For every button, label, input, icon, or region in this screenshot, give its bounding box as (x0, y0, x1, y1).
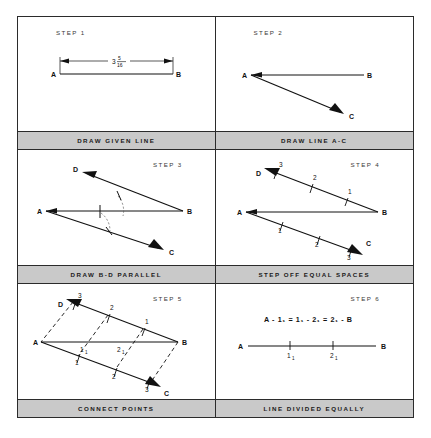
step5-caption-text: CONNECT POINTS (78, 405, 154, 412)
point-label-c: C (349, 113, 354, 120)
panel-step3: STEP 3 D A B C DRAW B-D PARALLEL (18, 150, 216, 283)
ray-b-d (88, 174, 183, 211)
point-label-b: B (382, 209, 387, 216)
tick-label-upper-1: 1 (145, 318, 149, 325)
division-label-2: 2 (330, 352, 334, 359)
point-label-b: B (381, 343, 386, 350)
tick-label-lower-2: 2 (315, 241, 319, 248)
point-label-a: A (37, 208, 42, 215)
intersection-subscript-2: 1 (122, 350, 125, 355)
point-label-b: B (182, 339, 187, 346)
point-label-a: A (238, 343, 243, 350)
connector-d-a (41, 302, 73, 342)
step6-drawing: A - 1₁ = 1₁ - 2₁ = 2₁ - B 1 1 2 1 A B (216, 284, 414, 403)
step5-drawing: 3 2 1 1 2 3 1 1 2 1 D A B C (18, 284, 216, 403)
division-subscript-2: 1 (335, 356, 338, 361)
dimension-arrow-right (164, 59, 173, 64)
step6-caption-text: LINE DIVIDED EQUALLY (263, 405, 365, 412)
step1-drawing: 3 5 16 A B (18, 17, 216, 134)
panel-step2: STEP 2 A B C DRAW LINE A-C (216, 17, 414, 150)
connector-1-3 (151, 342, 178, 382)
dimension-arrow-left (60, 59, 69, 64)
tick-label-lower-3: 3 (347, 254, 351, 261)
tick-upper-2 (310, 184, 313, 193)
tick-label-lower-1: 1 (278, 227, 282, 234)
point-label-c: C (169, 249, 174, 256)
step2-artwork: STEP 2 A B C (216, 17, 414, 132)
tick-label-upper-3: 3 (279, 161, 283, 168)
step3-drawing: D A B C (18, 150, 216, 267)
dimension-numerator: 5 (118, 55, 121, 61)
step3-caption: DRAW B-D PARALLEL (18, 265, 215, 283)
intersection-subscript-1: 1 (85, 350, 88, 355)
step4-drawing: 3 2 1 1 2 3 D A B C (216, 150, 414, 267)
point-label-b: B (367, 72, 372, 79)
tick-label-lower-1: 1 (75, 359, 79, 366)
ray-a-c (251, 75, 340, 112)
ray-a-c (46, 211, 158, 248)
step4-caption: STEP OFF EQUAL SPACES (216, 265, 414, 283)
step5-artwork: STEP 5 3 2 1 1 2 (18, 284, 215, 400)
tick-label-upper-3: 3 (78, 292, 82, 299)
step1-artwork: STEP 1 3 5 16 A B (18, 17, 215, 132)
step1-caption: DRAW GIVEN LINE (18, 131, 215, 149)
point-label-d: D (256, 170, 261, 177)
division-subscript-1: 1 (292, 356, 295, 361)
ray-b-d (73, 302, 178, 342)
dimension-whole: 3 (112, 58, 116, 65)
point-label-b: B (187, 208, 192, 215)
point-label-a: A (237, 209, 242, 216)
angle-arc-lower (101, 213, 110, 231)
step6-artwork: STEP 6 A - 1₁ = 1₁ - 2₁ = 2₁ - B 1 1 2 1… (216, 284, 414, 400)
tick-label-upper-2: 2 (110, 304, 114, 311)
intersection-label-1: 1 (80, 346, 84, 353)
panel-step6: STEP 6 A - 1₁ = 1₁ - 2₁ = 2₁ - B 1 1 2 1… (216, 284, 414, 417)
equation-text: A - 1₁ = 1₁ - 2₁ = 2₁ - B (264, 315, 353, 324)
step1-caption-text: DRAW GIVEN LINE (77, 137, 155, 144)
dimension-denominator: 16 (117, 62, 123, 68)
arrowhead-d (264, 168, 280, 176)
panel-step5: STEP 5 3 2 1 1 2 (18, 284, 216, 417)
ray-a-c (41, 342, 154, 384)
point-label-c: C (164, 390, 169, 397)
diagram-sheet: STEP 1 3 5 16 A B DRAW GIVEN LINE (17, 16, 414, 418)
ray-b-d (271, 171, 378, 212)
panel-step1: STEP 1 3 5 16 A B DRAW GIVEN LINE (18, 17, 216, 150)
tick-label-lower-3: 3 (145, 386, 149, 393)
step3-caption-text: DRAW B-D PARALLEL (71, 271, 162, 278)
arrowhead-c (148, 239, 164, 250)
step5-caption: CONNECT POINTS (18, 399, 215, 417)
point-label-a: A (33, 339, 38, 346)
tick-upper-ray (117, 191, 121, 200)
panel-step4: STEP 4 3 2 1 1 2 3 D (216, 150, 414, 283)
step4-caption-text: STEP OFF EQUAL SPACES (258, 271, 370, 278)
tick-label-upper-2: 2 (313, 174, 317, 181)
point-label-d: D (58, 301, 63, 308)
ray-a-c (246, 212, 356, 252)
tick-label-upper-1: 1 (348, 188, 352, 195)
tick-label-lower-2: 2 (112, 373, 116, 380)
division-label-1: 1 (287, 352, 291, 359)
step2-caption-text: DRAW LINE A-C (281, 137, 348, 144)
point-label-a: A (51, 71, 56, 78)
step2-drawing: A B C (216, 17, 414, 134)
step3-artwork: STEP 3 D A B C (18, 150, 215, 265)
arrowhead-c (329, 103, 344, 114)
point-label-c: C (366, 240, 371, 247)
step2-caption: DRAW LINE A-C (216, 131, 414, 149)
step6-caption: LINE DIVIDED EQUALLY (216, 399, 414, 417)
point-label-a: A (242, 72, 247, 79)
step4-artwork: STEP 4 3 2 1 1 2 3 D (216, 150, 414, 265)
point-label-d: D (73, 166, 78, 173)
intersection-label-2: 2 (117, 346, 121, 353)
point-label-b: B (176, 71, 181, 78)
